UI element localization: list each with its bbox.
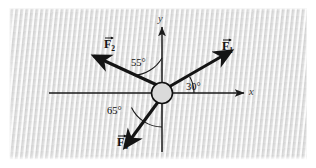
angle-label-55: 55° <box>131 58 146 69</box>
pin-joint-hub <box>152 83 173 104</box>
force-label-f3-sub: 3 <box>124 142 128 151</box>
x-axis-label: x <box>249 87 254 98</box>
figure-root: F1 F2 F3 30° 55° 65° x y <box>0 0 316 168</box>
angle-label-30: 30° <box>186 82 201 93</box>
force-vector-f3 <box>125 102 158 147</box>
force-label-f2-sub: 2 <box>111 44 115 53</box>
force-diagram-canvas <box>0 0 316 168</box>
vector-arrow-accent-icon <box>223 37 232 42</box>
angle-label-65: 65° <box>107 106 122 117</box>
force-label-f2: F2 <box>104 38 115 50</box>
y-axis-label: y <box>158 14 163 25</box>
vector-arrow-accent-icon <box>105 35 114 40</box>
force-vector-f2 <box>94 56 157 85</box>
force-label-f1-sub: 1 <box>229 46 233 55</box>
force-label-f1: F1 <box>222 40 233 52</box>
force-label-f3: F3 <box>117 136 128 148</box>
vector-arrow-accent-icon <box>118 133 127 138</box>
